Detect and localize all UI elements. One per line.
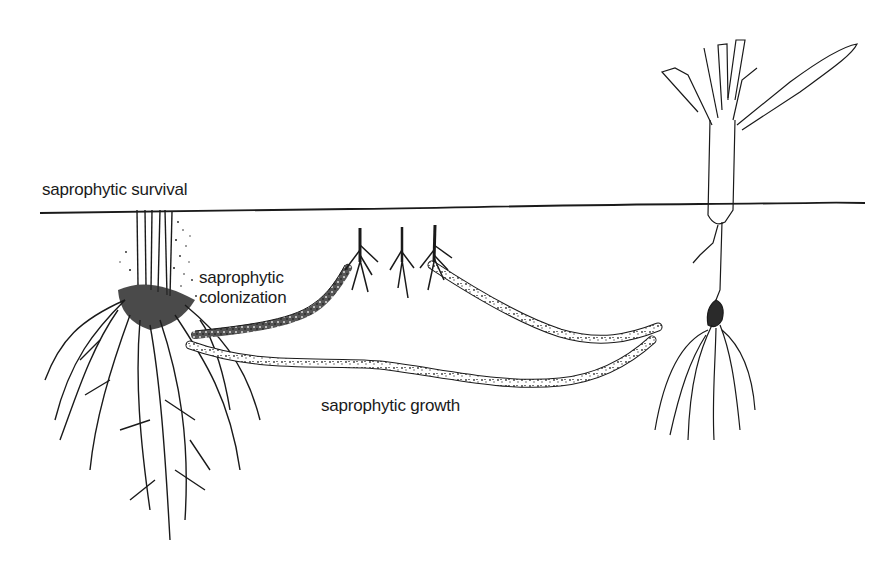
colonized-residue-fragments bbox=[345, 225, 452, 298]
label-colonization-line2: colonization bbox=[199, 288, 286, 308]
residue-fragment-2 bbox=[390, 227, 414, 298]
label-saprophytic-growth: saprophytic growth bbox=[321, 396, 460, 416]
label-saprophytic-survival: saprophytic survival bbox=[42, 180, 187, 200]
diagram-canvas bbox=[0, 0, 895, 576]
new-seedling bbox=[655, 40, 857, 440]
label-colonization-line1: saprophytic bbox=[199, 268, 286, 288]
soil-surface-line bbox=[40, 203, 865, 213]
old-plant-stubble bbox=[45, 210, 260, 540]
label-saprophytic-colonization: saprophytic colonization bbox=[199, 268, 286, 308]
residue-fragment-1 bbox=[345, 228, 378, 292]
residue-fragment-3 bbox=[420, 225, 452, 290]
